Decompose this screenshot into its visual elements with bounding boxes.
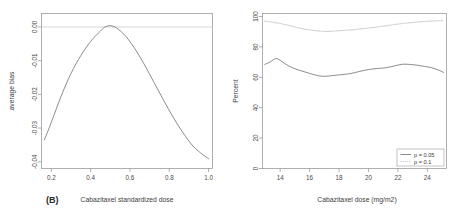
legend-label-2: p = 0.1 xyxy=(414,159,431,165)
y-tick-label-right: 0 xyxy=(252,166,259,170)
x-tick-label-right: 20 xyxy=(365,174,373,181)
y-tick-label-right: 80 xyxy=(252,43,259,51)
percent-curves xyxy=(265,21,444,77)
x-axis-ticks-left: 0.20.40.60.81.0 xyxy=(47,169,213,181)
panel-average-bias: 0.00-0.01-0.02-0.03-0.04 0.20.40.60.81.0… xyxy=(0,0,229,216)
x-axis-ticks-right: 141618202224 xyxy=(277,169,432,181)
x-tick-label-right: 24 xyxy=(424,174,432,181)
x-axis-label-right: Cabazitaxel dose (mg/m2) xyxy=(317,196,396,204)
y-axis-label-right: Percent xyxy=(232,79,239,103)
y-axis-label-left: average bias xyxy=(8,71,16,111)
curve-p-0-1 xyxy=(265,21,444,32)
curve-average-bias xyxy=(44,26,208,159)
x-tick-label-left: 0.8 xyxy=(165,174,174,181)
y-axis-ticks-left: 0.00-0.01-0.02-0.03-0.04 xyxy=(31,20,41,169)
panel-tag-b: (B) xyxy=(46,195,59,205)
y-tick-label-left: -0.03 xyxy=(31,120,38,135)
y-tick-label-left: -0.04 xyxy=(31,154,38,169)
x-tick-label-left: 1.0 xyxy=(204,174,213,181)
legend: p = 0.05p = 0.1 xyxy=(397,149,444,166)
x-tick-label-right: 14 xyxy=(277,174,285,181)
panel-percent: 100806040200 141618202224 p = 0.05p = 0.… xyxy=(229,0,459,216)
y-axis-ticks-right: 100806040200 xyxy=(252,11,262,170)
y-tick-label-right: 40 xyxy=(252,104,259,112)
x-tick-label-left: 0.4 xyxy=(86,174,95,181)
curve-p-0-05 xyxy=(265,59,444,77)
x-tick-label-right: 22 xyxy=(394,174,402,181)
y-tick-label-left: -0.01 xyxy=(31,53,38,68)
x-tick-label-left: 0.2 xyxy=(47,174,56,181)
y-tick-label-left: -0.02 xyxy=(31,87,38,102)
x-tick-label-right: 16 xyxy=(306,174,314,181)
x-axis-label-left: Cabazitaxel standardized dose xyxy=(81,196,174,203)
legend-label-1: p = 0.05 xyxy=(414,152,434,158)
plot-box-right xyxy=(263,14,447,169)
y-tick-label-left: 0.00 xyxy=(31,20,38,33)
x-tick-label-right: 18 xyxy=(336,174,344,181)
y-tick-label-right: 20 xyxy=(252,134,259,142)
y-tick-label-right: 100 xyxy=(252,11,259,22)
plot-box-left xyxy=(42,14,213,169)
average-bias-plot: 0.00-0.01-0.02-0.03-0.04 0.20.40.60.81.0… xyxy=(0,0,229,216)
figure-container: 0.00-0.01-0.02-0.03-0.04 0.20.40.60.81.0… xyxy=(0,0,459,216)
percent-plot: 100806040200 141618202224 p = 0.05p = 0.… xyxy=(229,0,459,216)
average-bias-curve xyxy=(44,26,208,159)
x-tick-label-left: 0.6 xyxy=(126,174,135,181)
y-tick-label-right: 60 xyxy=(252,73,259,81)
